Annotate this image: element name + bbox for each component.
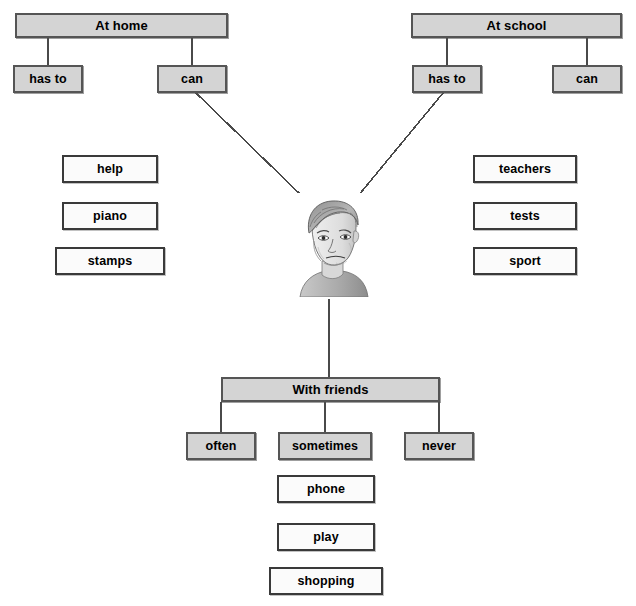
- node-at-school-has-to[interactable]: has to: [412, 65, 482, 93]
- node-with-friends-never[interactable]: never: [404, 432, 474, 460]
- node-with-friends-often[interactable]: often: [186, 432, 256, 460]
- node-with-friends-header[interactable]: With friends: [221, 377, 440, 402]
- node-word-shopping[interactable]: shopping: [269, 567, 383, 595]
- node-word-piano[interactable]: piano: [62, 202, 158, 230]
- node-at-home-header[interactable]: At home: [15, 13, 228, 38]
- node-word-stamps[interactable]: stamps: [55, 247, 165, 275]
- node-at-home-has-to[interactable]: has to: [13, 65, 83, 93]
- line-hasto-to-portrait: [358, 93, 443, 196]
- node-word-tests[interactable]: tests: [473, 202, 577, 230]
- worksheet-canvas: At home has to can help piano stamps At …: [0, 0, 636, 606]
- node-at-school-can[interactable]: can: [552, 65, 622, 93]
- boy-portrait-sketch: [288, 193, 374, 297]
- line-can-to-portrait: [196, 93, 302, 196]
- connector-lines: [0, 0, 636, 606]
- node-word-teachers[interactable]: teachers: [473, 155, 577, 183]
- node-with-friends-sometimes[interactable]: sometimes: [278, 432, 372, 460]
- node-word-phone[interactable]: phone: [277, 475, 375, 503]
- node-at-school-header[interactable]: At school: [411, 13, 622, 38]
- node-word-help[interactable]: help: [62, 155, 158, 183]
- node-word-sport[interactable]: sport: [473, 247, 577, 275]
- node-word-play[interactable]: play: [277, 523, 375, 551]
- node-at-home-can[interactable]: can: [157, 65, 227, 93]
